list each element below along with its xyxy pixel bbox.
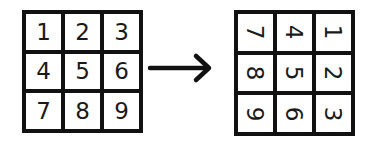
cell-number: 8 — [242, 66, 268, 81]
grid-cell: 7 — [26, 93, 61, 129]
right-arrow-icon — [146, 52, 216, 84]
grid-cell: 1 — [26, 14, 61, 50]
cell-number: 6 — [281, 106, 307, 121]
grid-cell: 6 — [104, 54, 139, 90]
grid-cell: 5 — [65, 54, 100, 90]
cell-number: 1 — [36, 19, 51, 45]
cell-number: 3 — [320, 106, 346, 121]
grid-cell: 2 — [316, 55, 351, 92]
cell-number: 6 — [114, 58, 129, 84]
cell-number: 9 — [242, 106, 268, 121]
grid-cell: 4 — [26, 54, 61, 90]
grid-cell: 9 — [104, 93, 139, 129]
cell-number: 3 — [114, 19, 129, 45]
cell-number: 2 — [75, 19, 90, 45]
cell-number: 5 — [281, 66, 307, 81]
cell-number: 7 — [36, 98, 51, 124]
grid-cell: 5 — [277, 55, 312, 92]
cell-number: 8 — [75, 98, 90, 124]
cell-number: 4 — [36, 58, 51, 84]
rotated-grid: 7 4 1 8 5 2 9 6 3 — [234, 10, 355, 136]
cell-number: 2 — [320, 66, 346, 81]
cell-number: 4 — [281, 25, 307, 40]
grid-cell: 8 — [238, 55, 273, 92]
grid-cell: 1 — [316, 14, 351, 51]
original-grid: 1 2 3 4 5 6 7 8 9 — [22, 10, 143, 133]
grid-cell: 4 — [277, 14, 312, 51]
grid-cell: 8 — [65, 93, 100, 129]
grid-cell: 9 — [238, 95, 273, 132]
cell-number: 1 — [320, 25, 346, 40]
grid-cell: 7 — [238, 14, 273, 51]
grid-cell: 6 — [277, 95, 312, 132]
grid-cell: 3 — [316, 95, 351, 132]
cell-number: 7 — [242, 25, 268, 40]
cell-number: 5 — [75, 58, 90, 84]
grid-cell: 3 — [104, 14, 139, 50]
cell-number: 9 — [114, 98, 129, 124]
grid-cell: 2 — [65, 14, 100, 50]
